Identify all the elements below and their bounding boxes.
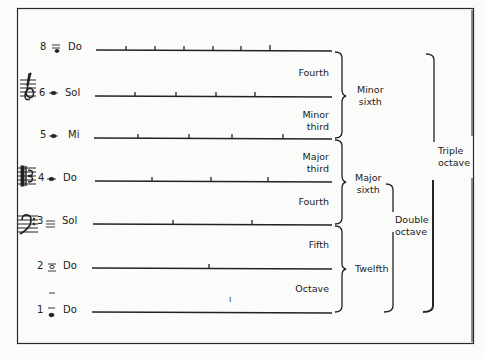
span-label-twelfth: Twelfth — [355, 263, 388, 275]
harmonic-number-6: 6 — [39, 87, 45, 98]
note-name-1: Do — [63, 304, 77, 315]
treble-clef-icon — [20, 73, 36, 99]
line-harmonic-8 — [96, 50, 332, 51]
span-label-minor-sixth: Minor sixth — [357, 84, 384, 108]
interval-label-octave: Octave — [295, 283, 329, 295]
harmonic-number-3: 3 — [37, 215, 43, 226]
span-label-major-sixth: Major sixth — [355, 172, 381, 196]
harmonic-lines — [92, 50, 332, 313]
note-name-5: Mi — [68, 129, 79, 140]
note-icon-8 — [52, 45, 60, 52]
note-icon-6 — [49, 91, 58, 94]
note-icon-3 — [46, 221, 55, 227]
harmonic-number-1: 1 — [37, 304, 43, 315]
note-glyphs — [46, 45, 60, 317]
interval-label-major-third: Major third — [303, 151, 329, 175]
note-name-3: Sol — [62, 215, 77, 226]
alto-clef-icon — [18, 166, 36, 186]
line-harmonic-1 — [92, 312, 332, 313]
interval-label-fourth-lower: Fourth — [298, 196, 329, 208]
interval-label-minor-third: Minor third — [302, 109, 329, 133]
line-harmonic-2 — [92, 268, 332, 269]
note-name-8: Do — [68, 41, 82, 52]
note-name-2: Do — [63, 260, 77, 271]
note-icon-4 — [47, 177, 56, 180]
note-icon-2 — [48, 264, 56, 271]
bass-clef-icon — [18, 215, 38, 234]
note-name-4: Do — [63, 172, 77, 183]
line-harmonic-5 — [94, 138, 332, 139]
note-name-6: Sol — [65, 87, 80, 98]
line-harmonic-4 — [95, 181, 332, 182]
triple-octave-bracket — [423, 10, 472, 342]
double-octave-bracket — [384, 184, 393, 312]
stray-mark: ı — [229, 294, 231, 305]
interval-label-fourth-upper: Fourth — [298, 67, 329, 79]
harmonic-number-4: 4 — [38, 172, 44, 183]
harmonic-number-8: 8 — [40, 41, 46, 52]
span-label-triple-octave: Triple octave — [438, 145, 470, 169]
node-ticks — [126, 45, 283, 268]
harmonic-number-5: 5 — [40, 129, 46, 140]
span-label-double-octave: Double octave — [395, 214, 429, 238]
note-icon-1 — [48, 293, 55, 317]
interval-label-fifth: Fifth — [309, 239, 329, 251]
diagram-frame — [18, 9, 474, 344]
line-harmonic-6 — [95, 96, 332, 97]
interval-braces — [335, 52, 346, 312]
harmonic-number-2: 2 — [37, 260, 43, 271]
note-icon-5 — [49, 134, 58, 137]
line-harmonic-3 — [93, 224, 332, 225]
